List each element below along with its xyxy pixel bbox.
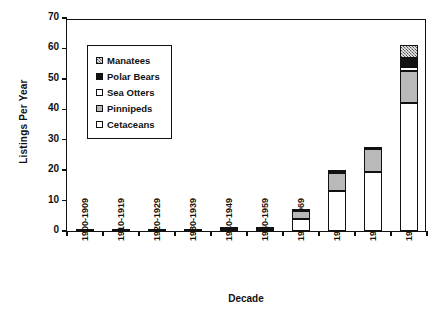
bar-stack (184, 229, 203, 231)
legend-label: Pinnipeds (107, 103, 152, 114)
bar-stack (292, 211, 311, 231)
y-tick-mark (62, 48, 67, 49)
bar-segment-polar-bears (256, 227, 275, 229)
legend-swatch-cetaceans (96, 121, 103, 128)
bar-segment-manatees (400, 45, 419, 57)
legend-label: Cetaceans (107, 119, 155, 130)
bar-segment-polar-bears (328, 170, 347, 173)
bar-stack (220, 229, 239, 231)
y-tick-label: 50 (48, 72, 59, 83)
x-tick-mark (174, 231, 175, 236)
x-tick-label: 1930-1939 (188, 198, 198, 241)
x-tick-mark (318, 231, 319, 236)
bar-segment-cetaceans (292, 219, 311, 231)
y-tick-label: 30 (48, 133, 59, 144)
x-tick-label: 1950-1959 (260, 198, 270, 241)
bar-segment-cetaceans (364, 172, 383, 231)
y-axis-title: Listings Per Year (18, 42, 29, 202)
bar-stack (148, 229, 167, 231)
bar-segment-cetaceans (76, 229, 95, 231)
x-tick-mark (102, 231, 103, 236)
legend-swatch-pinnipeds (96, 105, 103, 112)
bar-stack (76, 229, 95, 231)
y-tick-label: 20 (48, 163, 59, 174)
bar-stack (256, 228, 275, 231)
x-tick-mark (354, 231, 355, 236)
y-tick-label: 0 (53, 224, 59, 235)
legend-item: Sea Otters (96, 84, 160, 100)
legend-item: Pinnipeds (96, 100, 160, 116)
chart-figure: Listings Per Year 010203040506070 1900-1… (0, 0, 445, 319)
bar-segment-polar-bears (400, 58, 419, 67)
bar-segment-polar-bears (220, 227, 239, 229)
bar-segment-polar-bears (364, 147, 383, 149)
bar-segment-cetaceans (112, 229, 131, 231)
legend-item: Cetaceans (96, 116, 160, 132)
bar-stack (400, 45, 419, 231)
y-tick-mark (62, 17, 67, 18)
bar-segment-pinnipeds (400, 71, 419, 103)
legend-label: Manatees (107, 55, 150, 66)
bar-stack (328, 170, 347, 231)
x-tick-label: 1910-1919 (116, 198, 126, 241)
y-tick-label: 60 (48, 41, 59, 52)
y-tick-mark (62, 169, 67, 170)
y-tick-mark (62, 78, 67, 79)
x-axis-title: Decade (66, 293, 426, 304)
x-tick-mark (210, 231, 211, 236)
plot-area: 010203040506070 1900-19091910-19191920-1… (66, 19, 426, 232)
bar-segment-cetaceans (400, 103, 419, 231)
legend-swatch-manatees (96, 57, 103, 64)
bar-segment-pinnipeds (364, 149, 383, 172)
bar-segment-polar-bears (292, 209, 311, 211)
legend-label: Polar Bears (107, 71, 160, 82)
y-tick-mark (62, 200, 67, 201)
bar-stack (112, 229, 131, 231)
y-tick-mark (62, 109, 67, 110)
x-tick-mark (246, 231, 247, 236)
bar-stack (364, 147, 383, 231)
x-tick-mark (390, 231, 391, 236)
x-tick-mark (66, 231, 67, 236)
x-tick-label: 1920-1929 (152, 198, 162, 241)
legend-swatch-polar-bears (96, 73, 103, 80)
y-tick-label: 40 (48, 102, 59, 113)
x-tick-mark (426, 231, 427, 236)
bar-segment-cetaceans (184, 229, 203, 231)
chart-legend: ManateesPolar BearsSea OttersPinnipedsCe… (87, 45, 172, 139)
y-tick-label: 10 (48, 194, 59, 205)
x-tick-mark (282, 231, 283, 236)
x-tick-label: 1900-1909 (80, 198, 90, 241)
bar-segment-pinnipeds (292, 211, 311, 219)
x-tick-mark (138, 231, 139, 236)
legend-item: Manatees (96, 52, 160, 68)
y-tick-mark (62, 139, 67, 140)
legend-label: Sea Otters (107, 87, 155, 98)
x-tick-label: 1940-1949 (224, 198, 234, 241)
bar-segment-sea-otters (400, 67, 419, 72)
y-tick-label: 70 (48, 11, 59, 22)
bar-segment-cetaceans (148, 229, 167, 231)
legend-item: Polar Bears (96, 68, 160, 84)
bar-segment-pinnipeds (328, 173, 347, 191)
legend-swatch-sea-otters (96, 89, 103, 96)
bar-segment-cetaceans (328, 191, 347, 231)
